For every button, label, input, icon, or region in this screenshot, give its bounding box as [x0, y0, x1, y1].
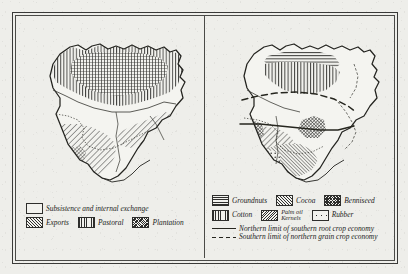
legend-item-groundnuts[interactable]: Groundnuts — [212, 195, 267, 206]
swatch-diagonal-icon — [26, 217, 43, 228]
legend-label: Rubber — [332, 211, 354, 219]
swatch-horizontal-icon — [212, 195, 229, 206]
swatch-vertical-icon — [78, 217, 95, 228]
swatch-checker-icon — [324, 195, 341, 206]
left-legend: Subsistence and internal exchange Export… — [26, 203, 193, 231]
legend-label: Southern limit of northern grain crop ec… — [239, 233, 378, 241]
legend-item-cocoa[interactable]: Cocoa — [276, 195, 315, 206]
legend-label: Exports — [46, 219, 69, 227]
legend-label: Northern limit of southern root crop eco… — [239, 225, 374, 233]
agricultural-economy-map — [20, 20, 198, 188]
swatch-diagonal-icon — [276, 195, 293, 206]
legend-item-palm-oil-kernels[interactable]: Palm oil Kernels — [261, 209, 303, 222]
legend-label: Palm oil Kernels — [281, 209, 303, 222]
panel-divider — [204, 16, 205, 258]
swatch-vertical-icon — [212, 210, 229, 221]
legend-row: Subsistence and internal exchange — [26, 203, 193, 214]
legend-label: Pastoral — [98, 219, 123, 227]
legend-label: Groundnuts — [232, 197, 267, 205]
legend-row: Groundnuts Cocoa Benniseed — [212, 195, 384, 206]
legend-label: Plantation — [152, 219, 183, 227]
legend-label: Benniseed — [344, 197, 374, 205]
legend-item-cotton[interactable]: Cotton — [212, 210, 252, 221]
right-legend: Groundnuts Cocoa Benniseed Cotton Palm o… — [212, 195, 384, 241]
legend-item-pastoral[interactable]: Pastoral — [78, 217, 123, 228]
legend-item-subsistence[interactable]: Subsistence and internal exchange — [26, 203, 148, 214]
legend-row: Cotton Palm oil Kernels Rubber — [212, 209, 384, 222]
legend-line-southern-limit[interactable]: Southern limit of northern grain crop ec… — [212, 233, 384, 241]
legend-label: Cotton — [232, 211, 252, 219]
swatch-dense-diagonal-icon — [261, 210, 278, 221]
legend-label-line2: Kernels — [281, 214, 301, 221]
legend-line-northern-limit[interactable]: Northern limit of southern root crop eco… — [212, 225, 384, 233]
legend-label: Cocoa — [296, 197, 315, 205]
legend-item-exports[interactable]: Exports — [26, 217, 69, 228]
legend-item-benniseed[interactable]: Benniseed — [324, 195, 374, 206]
export-crops-map — [214, 20, 392, 188]
figure-root: Subsistence and internal exchange Export… — [0, 0, 408, 274]
legend-item-rubber[interactable]: Rubber — [312, 210, 354, 221]
line-solid-icon — [212, 225, 236, 231]
line-dashed-icon — [212, 234, 236, 240]
swatch-blank-icon — [26, 203, 43, 214]
legend-item-plantation[interactable]: Plantation — [132, 217, 183, 228]
legend-label: Subsistence and internal exchange — [46, 205, 148, 213]
swatch-crosshatch-icon — [132, 217, 149, 228]
legend-row: Exports Pastoral Plantation — [26, 217, 193, 228]
swatch-dots-icon — [312, 210, 329, 221]
